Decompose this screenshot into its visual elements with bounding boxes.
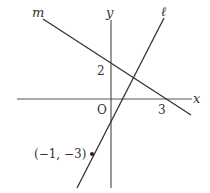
coordinate-diagram: m ℓ y x 2 O 3 (−1, −3) bbox=[0, 0, 210, 193]
point-label: (−1, −3) bbox=[34, 147, 86, 161]
line-m-label: m bbox=[32, 5, 44, 20]
y-axis-label: y bbox=[105, 5, 114, 20]
x-axis-label: x bbox=[193, 91, 201, 106]
line-l bbox=[77, 18, 164, 188]
origin-label: O bbox=[97, 103, 107, 117]
y-tick-2: 2 bbox=[97, 64, 105, 78]
x-tick-3: 3 bbox=[158, 103, 166, 117]
line-m bbox=[43, 19, 191, 115]
line-l-label: ℓ bbox=[161, 4, 167, 19]
point-marker bbox=[90, 152, 94, 156]
